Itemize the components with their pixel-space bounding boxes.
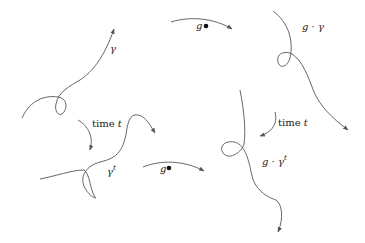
label-time-right: time t (278, 117, 309, 128)
label-gamma-t: γt (107, 164, 116, 177)
label-g-gamma-t: g · γt (262, 154, 287, 167)
bullet-icon (167, 166, 172, 171)
svg-text:g: g (196, 20, 202, 31)
bullet-icon (204, 24, 209, 29)
label-g-gamma: g · γ (302, 21, 324, 32)
label-g-action-bottom: g (160, 163, 171, 174)
svg-text:time t: time t (92, 118, 123, 129)
arrow-g-action-bottom (143, 162, 204, 171)
svg-text:time t: time t (278, 117, 309, 128)
label-time-left: time t (92, 118, 123, 129)
svg-text:γ: γ (110, 43, 116, 54)
arrow-time-right (260, 112, 276, 136)
label-g-action-top: g (196, 20, 208, 31)
curve-gamma (22, 29, 114, 118)
label-gamma: γ (110, 43, 116, 54)
svg-text:γt: γt (107, 164, 116, 177)
commutative-diagram: γ g g · γ time t γt g time t g · γt (0, 0, 365, 243)
svg-text:g: g (160, 163, 166, 174)
svg-text:g · γ: g · γ (302, 21, 324, 32)
arrow-time-left (78, 120, 91, 150)
svg-text:g · γt: g · γt (262, 154, 287, 167)
